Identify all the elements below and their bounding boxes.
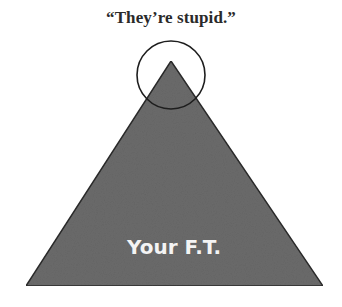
pyramid-label: Your F.T.: [126, 235, 221, 259]
pyramid-diagram: Your F.T.: [0, 0, 342, 307]
